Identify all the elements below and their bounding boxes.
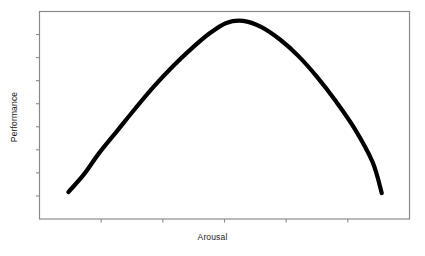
plot-area (0, 0, 425, 256)
plot-frame (40, 12, 410, 220)
y-axis-label: Performance (9, 67, 19, 167)
x-axis-label: Arousal (0, 232, 425, 242)
chart-figure: Arousal Performance (0, 0, 425, 256)
